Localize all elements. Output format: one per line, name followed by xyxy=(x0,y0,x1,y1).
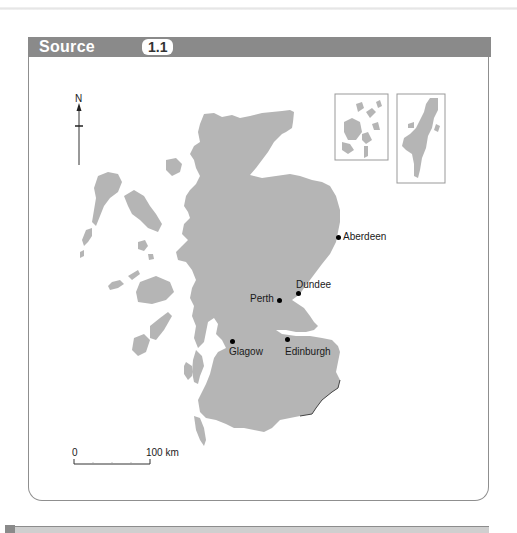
rum-shape xyxy=(138,240,148,251)
city-dot-dundee xyxy=(296,291,301,296)
jura-shape xyxy=(150,312,172,340)
mainland-shape xyxy=(176,110,340,432)
city-label-dundee: Dundee xyxy=(296,279,331,290)
city-label-glasgow: Glagow xyxy=(229,346,263,357)
north-arrow-icon xyxy=(75,103,83,165)
shetland-inset xyxy=(397,94,445,183)
city-label-aberdeen: Aberdeen xyxy=(343,231,386,242)
eigg-shape xyxy=(148,254,154,260)
next-section-bar xyxy=(5,526,489,533)
city-label-edinburgh: Edinburgh xyxy=(285,346,331,357)
kintyre-shape xyxy=(192,350,204,384)
skye-shape xyxy=(124,190,162,232)
scale-start-label: 0 xyxy=(72,447,78,458)
mull-shape xyxy=(136,276,174,304)
orkney-inset xyxy=(335,94,388,160)
lewis-harris-shape xyxy=(92,172,122,226)
section-marker xyxy=(5,525,15,533)
city-dot-aberdeen xyxy=(336,235,341,240)
northwest-island-shape xyxy=(166,158,182,176)
scale-bar xyxy=(74,459,150,464)
uist-shape xyxy=(82,228,92,246)
city-dot-edinburgh xyxy=(285,337,290,342)
north-label: N xyxy=(75,93,82,104)
barra-shape xyxy=(80,250,84,258)
scale-end-label: 100 km xyxy=(146,447,179,458)
islay-shape xyxy=(132,334,150,356)
coll-tiree-shape xyxy=(108,270,140,290)
city-label-perth: Perth xyxy=(250,293,274,304)
arran-shape xyxy=(184,362,192,380)
city-dot-glasgow xyxy=(230,339,235,344)
galloway-shape xyxy=(194,416,206,446)
city-dot-perth xyxy=(277,298,282,303)
